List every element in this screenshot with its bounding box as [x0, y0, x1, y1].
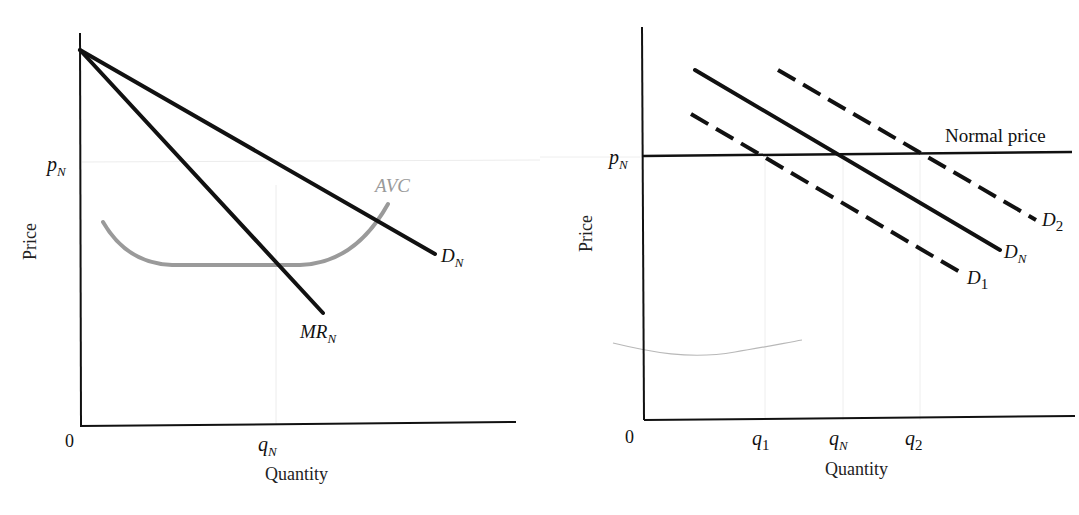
left-x-axis-label: Quantity [265, 465, 328, 483]
left-chart [80, 33, 540, 426]
mrn-label: MRN [300, 322, 336, 341]
left-origin-label: 0 [65, 432, 74, 450]
d1-label: D1 [967, 268, 988, 287]
left-demand-line [80, 50, 435, 254]
right-q1-tick: q1 [752, 428, 770, 448]
left-pn-guide-line [82, 160, 540, 162]
left-x-axis [80, 422, 516, 426]
left-dn-label: DN [441, 246, 463, 265]
left-marginal-revenue-line [80, 50, 323, 313]
stray-pencil-mark [613, 340, 802, 355]
avc-label: AVC [375, 176, 410, 195]
right-origin-label: 0 [625, 428, 634, 446]
right-x-axis-label: Quantity [825, 460, 888, 478]
right-demand-low-line [691, 114, 965, 275]
normal-price-line [643, 152, 1072, 156]
right-qn-tick: qN [829, 428, 848, 448]
right-y-axis [642, 27, 644, 420]
d2-label: D2 [1042, 210, 1063, 229]
normal-price-label: Normal price [945, 126, 1046, 145]
right-demand-normal-line [695, 70, 1000, 250]
right-x-axis [644, 416, 1075, 420]
left-qn-tick: qN [258, 434, 277, 454]
right-q2-tick: q2 [905, 428, 923, 448]
left-y-axis-label: Price [21, 223, 39, 260]
left-pn-tick: pN [47, 154, 66, 174]
right-chart [540, 27, 1075, 420]
left-y-axis [80, 33, 81, 426]
right-y-axis-label: Price [577, 215, 595, 252]
left-avc-curve [103, 204, 388, 265]
right-dn-label: DN [1004, 242, 1026, 261]
right-pn-tick: pN [609, 147, 628, 167]
